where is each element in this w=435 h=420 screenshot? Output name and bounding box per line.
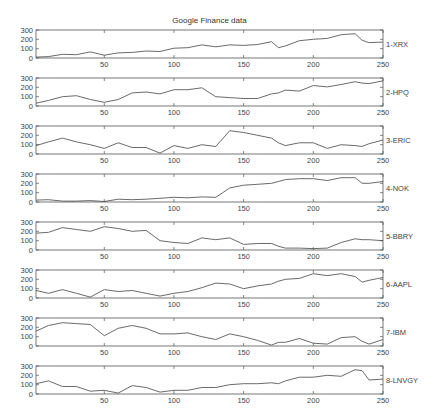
y-tick-label: 100 (20, 236, 33, 245)
y-tick-label: 200 (20, 83, 33, 92)
series-label: 1-XRX (386, 40, 408, 49)
y-tick-label: 100 (20, 284, 33, 293)
x-tick-label: 250 (377, 348, 390, 357)
x-tick-label: 250 (377, 300, 390, 309)
x-tick-label: 150 (237, 60, 250, 69)
y-tick-label: 0 (29, 150, 33, 159)
chart-panel: 0100200300501001502002507-IBM (20, 314, 406, 358)
y-tick-label: 300 (20, 314, 33, 323)
plot-frame (36, 126, 383, 154)
x-tick-label: 100 (168, 348, 181, 357)
plot-frame (36, 222, 383, 250)
plot-frame (36, 30, 383, 58)
x-tick-label: 100 (168, 204, 181, 213)
x-tick-label: 250 (377, 108, 390, 117)
plot-frame (36, 174, 383, 202)
plot-frame (36, 366, 383, 394)
series-line (36, 178, 383, 202)
x-tick-label: 100 (168, 60, 181, 69)
x-tick-label: 250 (377, 156, 390, 165)
y-tick-label: 200 (20, 227, 33, 236)
y-tick-label: 100 (20, 380, 33, 389)
y-tick-label: 100 (20, 44, 33, 53)
x-tick-label: 50 (100, 252, 108, 261)
y-tick-label: 200 (20, 179, 33, 188)
x-tick-label: 100 (168, 156, 181, 165)
x-tick-label: 250 (377, 396, 390, 405)
chart-panel: 0100200300501001502002506-AAPL (20, 266, 411, 310)
y-tick-label: 300 (20, 122, 33, 131)
series-line (36, 34, 383, 57)
series-label: 2-HPQ (386, 88, 409, 97)
x-tick-label: 150 (237, 204, 250, 213)
y-tick-label: 200 (20, 275, 33, 284)
y-tick-label: 300 (20, 218, 33, 227)
series-label: 7-IBM (386, 328, 406, 337)
chart-panel: 0100200300501001502002503-ERIC (20, 122, 411, 166)
y-tick-label: 200 (20, 323, 33, 332)
series-label: 5-BBRY (386, 232, 413, 241)
x-tick-label: 100 (168, 108, 181, 117)
series-line (36, 81, 383, 103)
x-tick-label: 50 (100, 108, 108, 117)
y-tick-label: 300 (20, 362, 33, 371)
y-tick-label: 0 (29, 102, 33, 111)
y-tick-label: 0 (29, 390, 33, 399)
series-line (36, 131, 383, 153)
x-tick-label: 50 (100, 204, 108, 213)
series-line (36, 227, 383, 249)
y-tick-label: 300 (20, 266, 33, 275)
x-tick-label: 200 (307, 396, 320, 405)
x-tick-label: 250 (377, 252, 390, 261)
x-tick-label: 50 (100, 156, 108, 165)
x-tick-label: 250 (377, 204, 390, 213)
chart-panel: 0100200300501001502002505-BBRY (20, 218, 412, 262)
chart-panel: 0100200300501001502002501-XRX (20, 26, 408, 70)
x-tick-label: 150 (237, 156, 250, 165)
x-tick-label: 150 (237, 396, 250, 405)
x-tick-label: 200 (307, 252, 320, 261)
series-label: 4-NOK (386, 184, 409, 193)
x-tick-label: 200 (307, 60, 320, 69)
y-tick-label: 0 (29, 246, 33, 255)
x-tick-label: 50 (100, 60, 108, 69)
series-label: 3-ERIC (386, 136, 411, 145)
plot-frame (36, 318, 383, 346)
plot-frame (36, 78, 383, 106)
plot-frame (36, 270, 383, 298)
chart-panel: 0100200300501001502002508-LNVGY (20, 362, 418, 406)
y-tick-label: 200 (20, 131, 33, 140)
x-tick-label: 100 (168, 252, 181, 261)
y-tick-label: 0 (29, 198, 33, 207)
series-label: 8-LNVGY (386, 376, 418, 385)
x-tick-label: 50 (100, 396, 108, 405)
chart-panel: 0100200300501001502002504-NOK (20, 170, 408, 214)
x-tick-label: 100 (168, 300, 181, 309)
y-tick-label: 300 (20, 26, 33, 35)
x-tick-label: 150 (237, 348, 250, 357)
y-tick-label: 100 (20, 188, 33, 197)
y-tick-label: 300 (20, 170, 33, 179)
series-line (36, 323, 383, 345)
x-tick-label: 250 (377, 60, 390, 69)
y-tick-label: 200 (20, 371, 33, 380)
x-tick-label: 50 (100, 348, 108, 357)
y-tick-label: 0 (29, 294, 33, 303)
x-tick-label: 100 (168, 396, 181, 405)
x-tick-label: 200 (307, 108, 320, 117)
x-tick-label: 150 (237, 252, 250, 261)
x-tick-label: 150 (237, 300, 250, 309)
x-tick-label: 200 (307, 204, 320, 213)
x-tick-label: 150 (237, 108, 250, 117)
multi-panel-line-chart: 0100200300501001502002501-XRX01002003005… (0, 0, 435, 420)
x-tick-label: 200 (307, 156, 320, 165)
x-tick-label: 50 (100, 300, 108, 309)
y-tick-label: 100 (20, 140, 33, 149)
series-line (36, 274, 383, 297)
x-tick-label: 200 (307, 300, 320, 309)
y-tick-label: 100 (20, 92, 33, 101)
series-label: 6-AAPL (386, 280, 412, 289)
chart-panel: 0100200300501001502002502-HPQ (20, 74, 409, 118)
x-tick-label: 200 (307, 348, 320, 357)
y-tick-label: 200 (20, 35, 33, 44)
